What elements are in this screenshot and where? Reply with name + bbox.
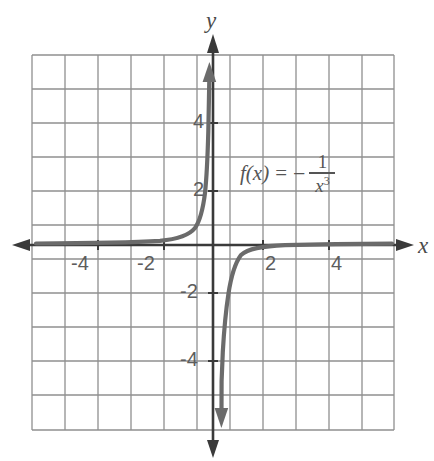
equation-denominator: x3 (311, 174, 333, 195)
x-tick-label-minus2: -2 (137, 252, 155, 275)
x-axis-arrow-right (396, 239, 414, 251)
equation-equals-sign: = (275, 161, 287, 186)
x-tick-label-4: 4 (331, 252, 342, 275)
x-axis-name: x (418, 233, 428, 259)
equation-function-name: f(x) (240, 161, 269, 186)
equation-denominator-exponent: 3 (324, 174, 330, 188)
equation-minus-sign: − (293, 161, 305, 187)
y-tick-label-minus4: -4 (180, 348, 198, 371)
equation-denominator-base: x (315, 175, 323, 196)
y-axis-name: y (206, 8, 216, 34)
y-tick-label-2: 2 (193, 178, 204, 201)
y-axis-arrow-up (207, 34, 219, 53)
y-axis-arrow-down (207, 440, 219, 458)
graph-figure (0, 0, 434, 461)
x-axis-arrow-left (12, 239, 30, 251)
y-tick-label-4: 4 (193, 110, 204, 133)
curve-right-arrow (215, 408, 229, 428)
x-tick-label-minus4: -4 (71, 252, 89, 275)
equation-fraction: 1 x3 (309, 152, 335, 195)
y-tick-label-minus2: -2 (180, 280, 198, 303)
curve-right-branch (215, 244, 392, 428)
equation-numerator: 1 (314, 152, 332, 172)
function-equation-label: f(x) = − 1 x3 (240, 152, 335, 195)
x-tick-label-2: 2 (265, 252, 276, 275)
